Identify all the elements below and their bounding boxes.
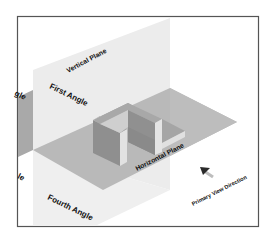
projection-planes-diagram: Vertical Plane First Angle gle le Fourth… [0, 0, 273, 239]
